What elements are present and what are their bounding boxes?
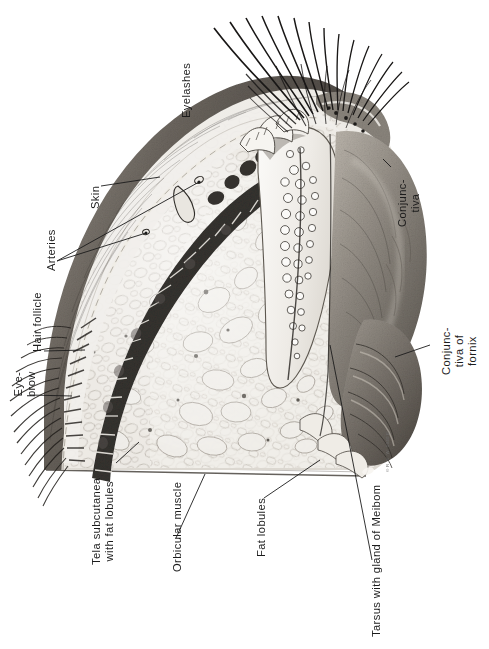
- label-eyelashes: Eyelashes: [180, 63, 193, 118]
- label-tarsus-meibom: Tarsus with gland of Meibom: [370, 484, 383, 637]
- label-skin: Skin: [89, 186, 102, 209]
- label-fat-lobules: Fat lobules: [255, 498, 268, 557]
- label-arteries: Arteries: [45, 229, 58, 271]
- eyelid-anatomy-plate: [0, 0, 489, 649]
- illustration-page: Eyelashes Skin Arteries Hair follicle Ey…: [0, 0, 489, 649]
- label-hair-follicle: Hair follicle: [31, 292, 44, 352]
- label-tela-subcutanea: Tela subcutanea with fat lobules: [90, 478, 116, 565]
- label-conjunctiva-of-fornix: Conjunc- tiva of fornix: [440, 327, 480, 375]
- artist-signature: © R. V. W. 1940 E.: [385, 430, 390, 472]
- label-orbicular-muscle: Orbicular muscle: [171, 482, 184, 572]
- label-conjunctiva: Conjunc- tiva: [396, 179, 422, 227]
- label-eye-brow: Eye- brow: [12, 371, 38, 397]
